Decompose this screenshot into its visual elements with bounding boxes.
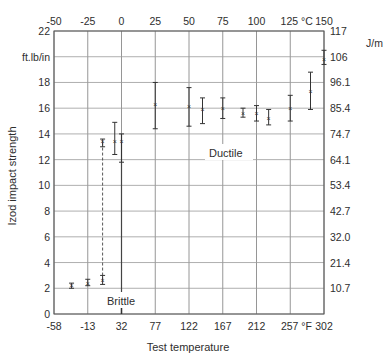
y-tick-left: 6 bbox=[0, 232, 50, 243]
y-tick-right: 96.1 bbox=[330, 77, 350, 88]
y-tick-left: 4 bbox=[0, 258, 50, 269]
x-tick-top: 0 bbox=[119, 16, 125, 27]
data-point-marker: × bbox=[101, 138, 105, 145]
x-tick-bottom: -13 bbox=[80, 321, 95, 332]
x-axis-title: Test temperature bbox=[147, 341, 230, 353]
x-tick-top: -25 bbox=[80, 16, 95, 27]
y-tick-right: 21.4 bbox=[330, 258, 350, 269]
y-tick-right: 10.7 bbox=[330, 283, 350, 294]
y-tick-right: 117 bbox=[330, 26, 347, 37]
x-tick-bottom: 302 bbox=[315, 321, 333, 332]
x-tick-bottom: 77 bbox=[149, 321, 161, 332]
y-tick-left: 22 bbox=[0, 26, 50, 37]
x-tick-bottom: -58 bbox=[46, 321, 61, 332]
y-tick-right: 64.1 bbox=[330, 155, 350, 166]
y-tick-right: 85.4 bbox=[330, 103, 350, 114]
y-unit-right: J/m bbox=[366, 38, 383, 49]
data-point-marker: × bbox=[86, 280, 90, 287]
x-tick-bottom: 212 bbox=[248, 321, 266, 332]
x-tick-top: 25 bbox=[149, 16, 161, 27]
data-point-marker: × bbox=[101, 277, 105, 284]
x-tick-top: 50 bbox=[183, 16, 195, 27]
y-tick-left: ft.lb/in bbox=[0, 52, 50, 63]
data-point-marker: × bbox=[200, 106, 204, 113]
data-point-marker: × bbox=[119, 138, 123, 145]
data-point-marker: × bbox=[288, 105, 292, 112]
y-tick-right: 42.7 bbox=[330, 206, 350, 217]
y-axis-title: Izod impact strength bbox=[6, 126, 18, 225]
data-point-marker: × bbox=[113, 138, 117, 145]
x-tick-bottom: 122 bbox=[180, 321, 198, 332]
data-point-marker: × bbox=[308, 88, 312, 95]
y-tick-left: 2 bbox=[0, 283, 50, 294]
data-point-marker: × bbox=[322, 56, 326, 63]
izod-impact-chart: ×××××××××××××××× -50-250255075100125 °C1… bbox=[0, 0, 390, 363]
data-point-marker: × bbox=[267, 115, 271, 122]
y-tick-left: 16 bbox=[0, 103, 50, 114]
data-point-marker: × bbox=[187, 103, 191, 110]
y-tick-right: 53.4 bbox=[330, 180, 350, 191]
data-point-marker: × bbox=[153, 101, 157, 108]
data-point-marker: × bbox=[254, 110, 258, 117]
x-tick-top: 100 bbox=[248, 16, 266, 27]
y-tick-right: 74.7 bbox=[330, 129, 350, 140]
y-tick-right: 106 bbox=[330, 52, 348, 63]
annotation-brittle: Brittle bbox=[107, 296, 135, 307]
x-tick-bottom: 32 bbox=[116, 321, 128, 332]
x-tick-top: 125 °C bbox=[281, 16, 313, 27]
x-tick-top: 75 bbox=[217, 16, 229, 27]
y-tick-left: 0 bbox=[0, 309, 50, 320]
data-point-marker: × bbox=[221, 105, 225, 112]
x-tick-bottom: 257 °F bbox=[281, 321, 312, 332]
x-tick-bottom: 167 bbox=[214, 321, 232, 332]
data-point-marker: × bbox=[241, 110, 245, 117]
annotation-ductile: Ductile bbox=[209, 148, 243, 159]
data-point-marker: × bbox=[70, 282, 74, 289]
y-tick-right: 32.0 bbox=[330, 232, 350, 243]
y-tick-left: 18 bbox=[0, 77, 50, 88]
